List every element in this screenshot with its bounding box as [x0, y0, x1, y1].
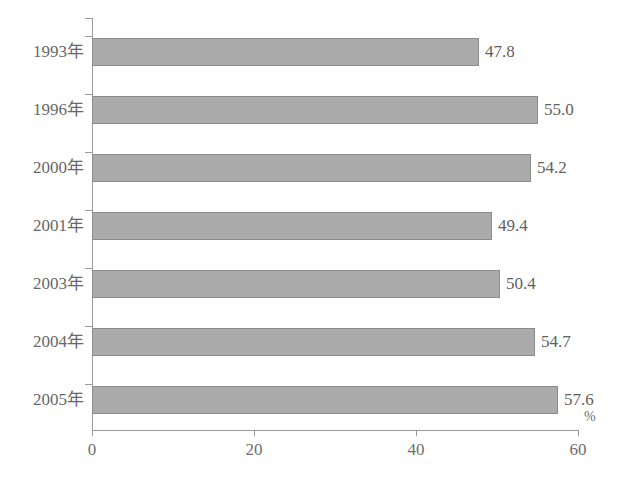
category-label-2005: 2005年	[0, 388, 84, 412]
category-label-2004: 2004年	[0, 330, 84, 354]
chart-figure: 47.8 55.0 54.2 49.4 50.4 54.7 57.6 %	[0, 0, 636, 483]
y-axis-tick	[85, 94, 92, 95]
y-axis-tick	[85, 326, 92, 327]
unit-label: %	[584, 409, 596, 425]
chart-title	[0, 0, 636, 9]
x-axis-tick-label: 0	[88, 439, 97, 461]
x-axis-tick	[92, 430, 93, 436]
category-label-2001: 2001年	[0, 214, 84, 238]
bar-1993[interactable]	[92, 38, 479, 66]
category-label-2003: 2003年	[0, 272, 84, 296]
bar-value-label: 50.4	[506, 272, 536, 296]
y-axis-tick-top	[85, 18, 92, 19]
y-axis-tick	[85, 36, 92, 37]
y-axis-tick	[85, 210, 92, 211]
bar-2003[interactable]	[92, 270, 500, 298]
y-axis-tick	[85, 152, 92, 153]
x-axis-tick	[254, 430, 255, 436]
plot-area: 47.8 55.0 54.2 49.4 50.4 54.7 57.6 %	[92, 18, 578, 430]
category-label-1993: 1993年	[0, 40, 84, 64]
bar-2005[interactable]	[92, 386, 558, 414]
x-axis-tick	[578, 430, 579, 436]
bar-2004[interactable]	[92, 328, 535, 356]
bar-2000[interactable]	[92, 154, 531, 182]
y-axis-tick	[85, 384, 92, 385]
x-axis-line	[92, 430, 578, 431]
x-axis-tick-label: 60	[570, 439, 587, 461]
bar-value-label: 49.4	[498, 214, 528, 238]
category-label-2000: 2000年	[0, 156, 84, 180]
x-axis-tick-label: 20	[246, 439, 263, 461]
x-axis-tick	[416, 430, 417, 436]
bar-value-label: 54.7	[541, 330, 571, 354]
bar-value-label: 54.2	[537, 156, 567, 180]
bar-2001[interactable]	[92, 212, 492, 240]
y-axis-tick	[85, 268, 92, 269]
category-label-1996: 1996年	[0, 98, 84, 122]
bar-1996[interactable]	[92, 96, 538, 124]
bar-value-label: 47.8	[485, 40, 515, 64]
x-axis-tick-label: 40	[408, 439, 425, 461]
bar-value-label: 55.0	[544, 98, 574, 122]
